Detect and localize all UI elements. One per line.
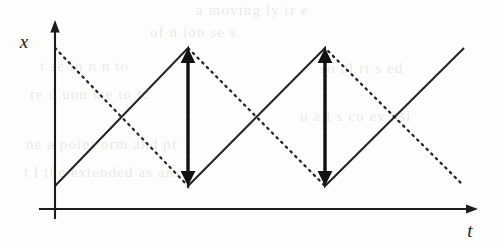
y-axis-label: x [19,31,29,52]
x-axis-label: t [467,220,473,241]
jump-arrow-2-head-up [318,48,333,63]
rising-sawtooth-solid [55,48,464,186]
jump-arrow-2-head-down [318,171,333,186]
waveform-group [55,48,464,186]
falling-sawtooth-dotted [55,48,464,186]
jump-arrow-1-head-down [181,171,196,186]
sawtooth-plot: x t [0,0,504,249]
x-axis-arrowhead [466,204,478,213]
y-axis-arrowhead [50,20,59,33]
figure-canvas: a moving ly tr eof n ion se st se in n n… [0,0,504,249]
jump-arrow-1-head-up [181,48,196,63]
